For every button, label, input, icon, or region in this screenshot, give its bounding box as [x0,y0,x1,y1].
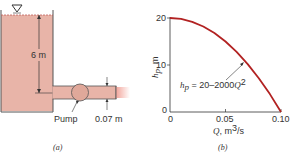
y-tick-label-0: 0 [162,105,167,115]
x-tick-label-010: 0.10 [272,114,290,124]
pump-leader [72,102,77,112]
pump-label: Pump [54,114,78,124]
diameter-label: 0.07 m [95,114,123,124]
pump-curve-line [170,18,281,112]
figure: 6 m Pump 0.07 m (a) [0,0,294,155]
curve-annotation: hp = 20–2000Q2 [180,77,246,92]
y-tick-label-20: 20 [156,13,166,23]
pipe-cover [53,87,55,99]
height-label: 6 m [31,50,46,60]
x-tick-label-005: 0.05 [216,114,234,124]
caption-a: (a) [53,143,63,152]
tank-water [1,15,53,111]
free-surface-triangle-icon [12,5,22,12]
x-axis-label: Q, m3/s [213,123,245,136]
panel-a-tank-diagram: 6 m Pump 0.07 m (a) [1,5,130,152]
x-tick-label-0: 0 [168,114,173,124]
diameter-arrow-top-icon [106,83,109,86]
pump-icon [72,84,89,101]
panel-b-pump-curve-chart: 20 10 0 0 0.05 0.10 hp = 20–2000Q2 Q, m3… [150,13,290,152]
outlet-jet [116,87,130,98]
diameter-arrow-bottom-icon [106,99,109,102]
curve-annotation-arrow-icon [240,62,244,66]
caption-b: (b) [218,143,228,152]
